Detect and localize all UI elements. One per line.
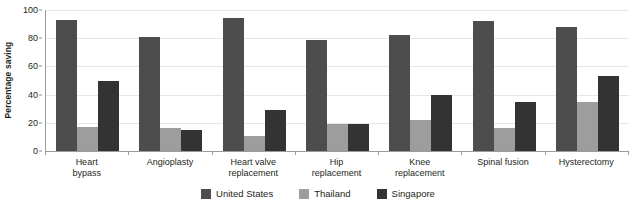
legend-label: Thailand <box>314 188 350 199</box>
bar <box>577 102 598 151</box>
bar <box>515 102 536 151</box>
bar <box>348 124 369 151</box>
x-axis-label-line: Hip <box>330 157 344 167</box>
legend-label: Singapore <box>392 188 435 199</box>
bar <box>389 35 410 151</box>
legend-item[interactable]: Singapore <box>377 188 435 199</box>
bar <box>306 40 327 151</box>
bar <box>473 21 494 151</box>
bar-group <box>213 10 296 151</box>
y-axis-tick-label: 20 <box>28 118 38 128</box>
bar-group <box>296 10 379 151</box>
x-axis-label-line: replacement <box>295 168 378 179</box>
bar <box>556 27 577 151</box>
x-axis-category-label: Angioplasty <box>128 157 211 185</box>
legend-color-swatch <box>299 189 309 199</box>
x-axis-tick-mark <box>378 151 379 155</box>
x-axis-tick-mark <box>45 151 46 155</box>
y-axis-tick-mark <box>39 151 42 152</box>
x-axis-tick-mark <box>295 151 296 155</box>
bar <box>160 128 181 151</box>
legend-item[interactable]: Thailand <box>299 188 350 199</box>
x-axis-tick-mark <box>128 151 129 155</box>
legend-color-swatch <box>377 189 387 199</box>
bar <box>410 120 431 151</box>
bar <box>181 130 202 151</box>
bar-group <box>46 10 129 151</box>
x-axis-label-line: replacement <box>378 168 461 179</box>
y-axis-tick-label: 0 <box>33 146 38 156</box>
y-axis-tick-label: 100 <box>23 5 38 15</box>
bar <box>77 127 98 151</box>
bar <box>56 20 77 151</box>
bar <box>223 18 244 151</box>
bar-group <box>129 10 212 151</box>
x-axis-label-line: bypass <box>45 168 128 179</box>
x-axis-category-label: Kneereplacement <box>378 157 461 185</box>
x-axis-category-label: Hipreplacement <box>295 157 378 185</box>
y-axis-tick-label: 40 <box>28 90 38 100</box>
bar <box>139 37 160 151</box>
y-axis-tick-label: 60 <box>28 61 38 71</box>
y-axis-title-text: Percentage saving <box>3 42 13 119</box>
bar <box>598 76 619 151</box>
x-axis-tick-mark <box>212 151 213 155</box>
x-axis-category-labels: HeartbypassAngioplastyHeart valvereplace… <box>45 157 628 185</box>
y-axis-tick-label: 80 <box>28 33 38 43</box>
x-axis-tick-marks <box>45 151 628 156</box>
bar-group <box>546 10 629 151</box>
x-axis-label-line: Spinal fusion <box>477 157 529 167</box>
x-axis-tick-mark <box>461 151 462 155</box>
x-axis-category-label: Spinal fusion <box>461 157 544 185</box>
y-axis-tick-mark <box>39 10 42 11</box>
y-axis-tick-mark <box>39 38 42 39</box>
bar <box>244 136 265 152</box>
bar-group <box>379 10 462 151</box>
x-axis-label-line: Heart valve <box>230 157 276 167</box>
legend-item[interactable]: United States <box>201 188 273 199</box>
x-axis-label-line: Angioplasty <box>147 157 194 167</box>
x-axis-tick-mark <box>628 151 629 155</box>
x-axis-label-line: Heart <box>76 157 98 167</box>
y-axis-tick-labels: 100806040200 <box>16 10 42 151</box>
bar-group <box>462 10 545 151</box>
y-axis-tick-mark <box>39 94 42 95</box>
x-axis-label-line: replacement <box>212 168 295 179</box>
bar <box>494 128 515 151</box>
x-axis-category-label: Heart valvereplacement <box>212 157 295 185</box>
legend-color-swatch <box>201 189 211 199</box>
x-axis-label-line: Hysterectomy <box>559 157 614 167</box>
y-axis-tick-mark <box>39 122 42 123</box>
bar <box>265 110 286 151</box>
bar <box>98 81 119 152</box>
chart-legend: United StatesThailandSingapore <box>0 188 636 199</box>
plot-area <box>45 10 629 152</box>
x-axis-category-label: Heartbypass <box>45 157 128 185</box>
bar-chart: Percentage saving 100806040200 Heartbypa… <box>0 0 636 211</box>
x-axis-tick-mark <box>545 151 546 155</box>
x-axis-label-line: Knee <box>409 157 430 167</box>
bar <box>327 124 348 151</box>
y-axis-tick-mark <box>39 66 42 67</box>
bar <box>431 95 452 151</box>
x-axis-category-label: Hysterectomy <box>545 157 628 185</box>
y-axis-title: Percentage saving <box>0 0 16 160</box>
bar-groups <box>46 10 629 151</box>
legend-label: United States <box>216 188 273 199</box>
